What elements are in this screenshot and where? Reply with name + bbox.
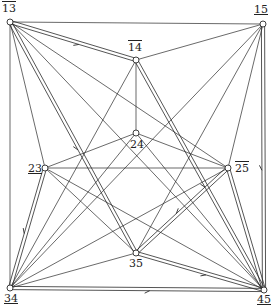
edge-15-45 xyxy=(259,24,265,290)
node-13 xyxy=(7,19,13,25)
node-label-15: 15 xyxy=(254,4,268,15)
edge-15-35 xyxy=(136,24,263,253)
node-label-45: 45 xyxy=(257,294,271,305)
edge-23-35 xyxy=(45,168,136,253)
edge-14-15 xyxy=(136,24,263,60)
node-label-14: 14 xyxy=(128,42,142,53)
node-35 xyxy=(133,250,139,256)
node-15 xyxy=(260,21,266,27)
node-14 xyxy=(133,57,139,63)
edge-25-35 xyxy=(135,167,229,254)
edge-24-34 xyxy=(10,133,136,288)
edge-24-45 xyxy=(136,133,264,290)
edge-35-45 xyxy=(136,251,265,291)
edge-13-15 xyxy=(10,22,263,24)
edge-34-35 xyxy=(10,253,136,288)
edge-23-34 xyxy=(8,168,46,289)
edge-24-25 xyxy=(136,133,228,168)
arrow-head-icon xyxy=(73,44,79,45)
edge-23-45 xyxy=(45,168,264,290)
edge-15-25 xyxy=(228,24,263,168)
edge-13-23 xyxy=(10,22,45,168)
node-label-24: 24 xyxy=(130,139,144,150)
arrow-head-icon xyxy=(200,275,205,276)
edge-13-14 xyxy=(10,20,137,61)
edge-25-34 xyxy=(10,168,228,288)
node-label-35: 35 xyxy=(129,258,143,269)
node-24 xyxy=(133,130,139,136)
node-34 xyxy=(7,285,13,291)
node-label-34: 34 xyxy=(4,293,18,304)
node-label-13: 13 xyxy=(2,3,16,14)
edge-23-24 xyxy=(45,133,136,168)
node-label-25: 25 xyxy=(235,163,249,174)
arrow-head-icon xyxy=(23,228,24,234)
node-25 xyxy=(225,165,231,171)
edge-34-45 xyxy=(10,286,264,293)
node-23 xyxy=(42,165,48,171)
node-label-23: 23 xyxy=(28,163,42,174)
